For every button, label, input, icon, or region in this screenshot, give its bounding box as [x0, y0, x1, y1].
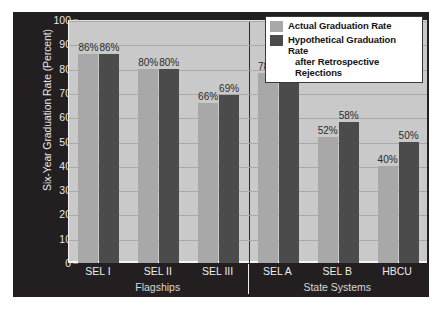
- legend-label-hypothetical-line2: after Retrospective Rejections: [288, 56, 418, 78]
- bar-sel-i-actual: [78, 54, 98, 263]
- legend-item-actual: Actual Graduation Rate: [270, 20, 418, 32]
- bar-value-label: 40%: [378, 154, 398, 165]
- bar-sel-a-actual: [258, 73, 278, 263]
- x-tick-label-sel-i: SEL I: [85, 265, 110, 277]
- bar-value-label: 52%: [318, 125, 338, 136]
- bar-sel-ii-hypothetical: [159, 69, 179, 263]
- x-axis-group-divider: [248, 264, 249, 294]
- bar-sel-ii-actual: [138, 69, 158, 263]
- bar-sel-iii-hypothetical: [219, 95, 239, 263]
- y-tick-label-20: 20: [33, 208, 71, 220]
- bar-value-label: 80%: [159, 57, 179, 68]
- gridline-50: [69, 143, 427, 144]
- y-tick-label-90: 90: [33, 38, 71, 50]
- bar-value-label: 50%: [399, 130, 419, 141]
- bar-hbcu-actual: [378, 166, 398, 263]
- bar-sel-b-hypothetical: [339, 122, 359, 263]
- gridline-30: [69, 191, 427, 192]
- x-axis: SEL ISEL IISEL IIISEL ASEL BHBCUFlagship…: [68, 264, 427, 297]
- y-tick-label-30: 30: [33, 184, 71, 196]
- bar-sel-i-hypothetical: [99, 54, 119, 263]
- legend-label-hypothetical: Hypothetical Graduation Rate after Retro…: [288, 34, 418, 78]
- gridline-10: [69, 240, 427, 241]
- group-label-state-systems: State Systems: [303, 281, 371, 293]
- bar-sel-iii-actual: [198, 103, 218, 263]
- legend-swatch-actual: [270, 21, 283, 32]
- y-tick-label-80: 80: [33, 63, 71, 75]
- x-tick-label-sel-ii: SEL II: [144, 265, 172, 277]
- y-tick-label-10: 10: [33, 233, 71, 245]
- group-label-flagships: Flagships: [135, 281, 180, 293]
- y-tick-label-0: 0: [33, 257, 71, 269]
- bar-value-label: 80%: [138, 57, 158, 68]
- x-tick-label-hbcu: HBCU: [382, 265, 412, 277]
- y-tick-label-60: 60: [33, 111, 71, 123]
- bar-value-label: 86%: [78, 42, 98, 53]
- y-tick-label-40: 40: [33, 160, 71, 172]
- bar-sel-b-actual: [318, 137, 338, 263]
- x-tick-label-sel-a: SEL A: [263, 265, 292, 277]
- bar-sel-a-hypothetical: [279, 71, 299, 263]
- legend-label-actual: Actual Graduation Rate: [288, 20, 391, 31]
- gridline-20: [69, 215, 427, 216]
- bar-value-label: 69%: [219, 83, 239, 94]
- legend-swatch-hypothetical: [270, 35, 283, 46]
- y-tick-label-100: 100: [33, 14, 71, 26]
- gridline-70: [69, 94, 427, 95]
- x-tick-label-sel-b: SEL B: [323, 265, 352, 277]
- y-tick-label-70: 70: [33, 87, 71, 99]
- legend-label-hypothetical-line1: Hypothetical Graduation Rate: [288, 34, 396, 56]
- y-axis-tick-labels: 1009080706050403020100: [33, 12, 71, 297]
- bar-value-label: 58%: [339, 110, 359, 121]
- gridline-40: [69, 167, 427, 168]
- x-tick-label-sel-iii: SEL III: [202, 265, 233, 277]
- legend-item-hypothetical: Hypothetical Graduation Rate after Retro…: [270, 34, 418, 78]
- bar-value-label: 66%: [198, 91, 218, 102]
- bar-hbcu-hypothetical: [399, 142, 419, 264]
- y-tick-label-50: 50: [33, 136, 71, 148]
- bar-value-label: 86%: [99, 42, 119, 53]
- gridline-60: [69, 118, 427, 119]
- chart-figure: Six-Year Graduation Rate (Percent) 10090…: [13, 12, 429, 297]
- chart-legend: Actual Graduation Rate Hypothetical Grad…: [265, 16, 423, 83]
